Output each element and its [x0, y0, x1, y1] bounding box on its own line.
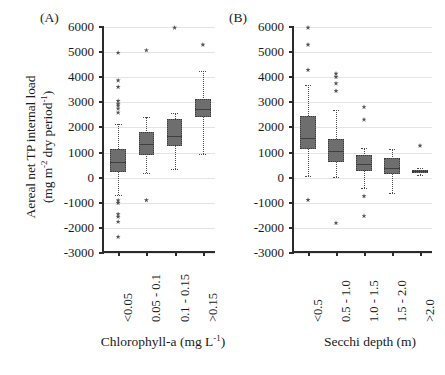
median-line	[139, 144, 155, 145]
y-axis-tick	[99, 202, 104, 204]
outlier-marker	[334, 220, 339, 225]
y-axis-tick	[99, 126, 104, 128]
x-axis-category-label: >0.15	[206, 293, 221, 322]
x-axis-tick	[336, 251, 338, 256]
gridline	[104, 77, 215, 78]
whisker-cap-upper	[361, 148, 368, 149]
median-line	[412, 171, 427, 172]
y-axis-tick-labels-a: 6000500040003000200010000-1000-2000-3000	[46, 27, 94, 253]
y-axis-title-line1: Aereal net TP internal load	[22, 22, 39, 272]
outlier-marker	[116, 110, 121, 115]
outlier-marker	[200, 42, 205, 47]
gridline	[294, 153, 432, 154]
y-axis-tick-label: 6000	[258, 19, 284, 35]
whisker-cap-upper	[199, 71, 206, 72]
gridline	[294, 228, 432, 229]
y-axis-tick	[99, 76, 104, 78]
outlier-marker	[116, 234, 121, 239]
x-axis-tick	[364, 251, 366, 256]
x-axis-tick	[118, 251, 120, 256]
x-axis-title-superscript: -1	[213, 333, 220, 343]
panel-label-a: (A)	[40, 10, 59, 26]
x-axis-category-label: 0.5 - 1.0	[339, 280, 354, 322]
y-axis-tick-label: -1000	[254, 195, 284, 211]
whisker-cap-lower	[143, 173, 150, 174]
outlier-marker	[418, 143, 423, 148]
gridline	[104, 178, 215, 179]
median-line	[195, 109, 211, 110]
gridline	[104, 27, 215, 28]
y-axis-tick-label: 0	[88, 170, 95, 186]
x-axis-category-label: 1.0 - 1.5	[367, 280, 382, 322]
whisker-cap-upper	[305, 85, 312, 86]
outlier-marker	[362, 104, 367, 109]
y-axis-tick-label: -3000	[64, 245, 94, 261]
x-axis-title-a: Chlorophyll-a (mg L-1)	[88, 334, 238, 350]
outlier-marker	[306, 67, 311, 72]
gridline	[104, 228, 215, 229]
y-axis-tick-label: 4000	[68, 69, 94, 85]
x-axis-category-label: 0.05 - 0.1	[149, 274, 164, 322]
y-axis-tick	[289, 252, 294, 254]
gridline	[294, 253, 432, 254]
y-axis-tick	[289, 101, 294, 103]
median-line	[110, 162, 126, 163]
gridline	[294, 178, 432, 179]
panel-label-b: (B)	[229, 10, 247, 26]
y-axis-tick-label: 0	[278, 170, 285, 186]
outlier-marker	[334, 81, 339, 86]
x-axis-tick	[392, 251, 394, 256]
outlier-marker	[334, 88, 339, 93]
figure-boxplot-panels: Aereal net TP internal load (mg m-2 dry …	[0, 0, 445, 375]
outlier-marker	[116, 219, 121, 224]
whisker-cap-lower	[171, 169, 178, 170]
y-axis-tick	[289, 26, 294, 28]
y-axis-tick-label: -2000	[254, 220, 284, 236]
y-axis-tick-label: 6000	[68, 19, 94, 35]
y-axis-tick	[99, 227, 104, 229]
whisker-cap-lower	[361, 188, 368, 189]
outlier-marker	[116, 78, 121, 83]
gridline	[294, 203, 432, 204]
x-axis-title-tail: )	[221, 334, 226, 349]
gridline	[294, 102, 432, 103]
median-line	[384, 168, 399, 169]
y-axis-tick	[289, 202, 294, 204]
whisker-cap-lower	[199, 154, 206, 155]
y-axis-tick-label: 4000	[258, 69, 284, 85]
whisker-cap-lower	[417, 175, 424, 176]
x-axis-tick	[175, 251, 177, 256]
y-axis-tick-label: 2000	[258, 119, 284, 135]
y-axis-tick-labels-b: 6000500040003000200010000-1000-2000-3000	[236, 27, 284, 253]
whisker-cap-lower	[115, 195, 122, 196]
y-axis-tick-label: -2000	[64, 220, 94, 236]
y-axis-tick	[99, 101, 104, 103]
y-axis-tick	[289, 177, 294, 179]
boxplot-box	[110, 149, 126, 172]
whisker-cap-upper	[333, 110, 340, 111]
whisker-cap-upper	[143, 117, 150, 118]
x-axis-category-label: <0.05	[121, 293, 136, 322]
y-axis-tick	[99, 252, 104, 254]
x-axis-category-label: 1.5 - 2.0	[395, 280, 410, 322]
y-axis-tick	[289, 51, 294, 53]
y-axis-tick	[289, 76, 294, 78]
whisker-cap-upper	[417, 168, 424, 169]
y-axis-tick	[99, 51, 104, 53]
y-axis-tick	[289, 126, 294, 128]
y-axis-tick	[289, 227, 294, 229]
y-axis-tick-label: 3000	[258, 94, 284, 110]
median-line	[356, 164, 371, 165]
y-axis-tick	[289, 152, 294, 154]
x-axis-category-label: >2.0	[423, 299, 438, 322]
x-axis-title-b: Secchi depth (m)	[300, 334, 440, 350]
x-axis-tick	[203, 251, 205, 256]
y-axis-tick-label: 5000	[258, 44, 284, 60]
outlier-marker	[362, 117, 367, 122]
gridline	[104, 52, 215, 53]
x-axis-tick	[308, 251, 310, 256]
boxplot-box	[384, 158, 399, 174]
median-line	[167, 136, 183, 137]
y-axis-tick	[99, 152, 104, 154]
outlier-marker	[306, 42, 311, 47]
